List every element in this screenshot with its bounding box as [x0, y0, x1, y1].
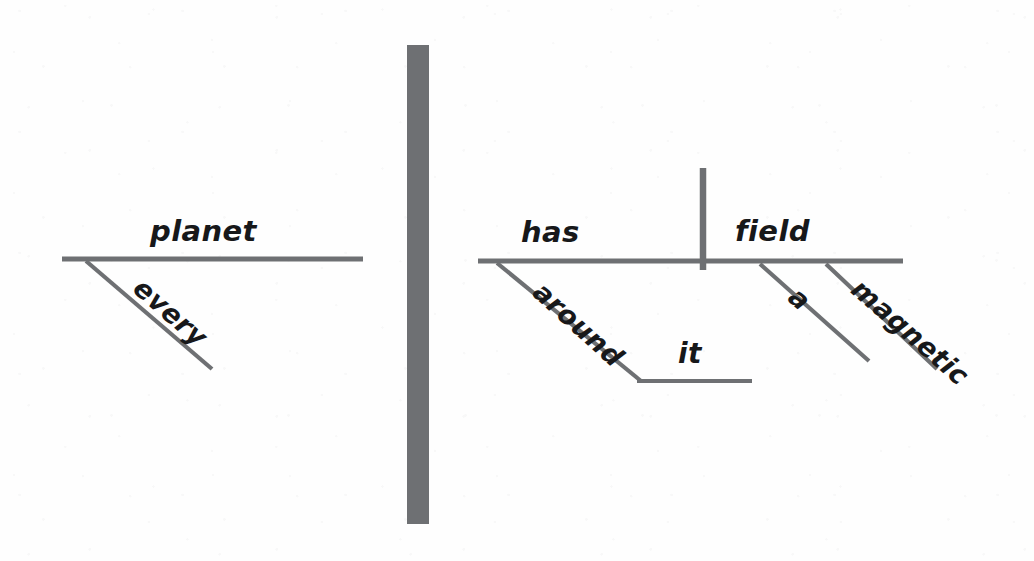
diagram-word-has: has	[521, 215, 580, 249]
center-divider-bar	[407, 45, 429, 524]
sentence-diagram-canvas: planeteveryhasarounditfieldamagnetic	[0, 0, 1034, 561]
diagram-word-planet: planet	[150, 214, 257, 248]
a-article-line	[760, 264, 869, 361]
diagram-word-field: field	[735, 214, 810, 248]
diagram-word-it: it	[678, 337, 702, 370]
